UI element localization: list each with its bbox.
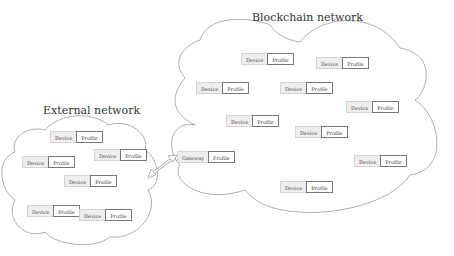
profile-label: Profile: [222, 82, 249, 94]
profile-label: Profile: [252, 115, 279, 127]
blockchain-device-node[interactable]: DeviceProfile: [295, 126, 348, 138]
external-device-node[interactable]: DeviceProfile: [64, 175, 117, 187]
external-device-node[interactable]: DeviceProfile: [27, 205, 80, 217]
profile-label: Profile: [267, 53, 294, 65]
gateway-node[interactable]: GatewayProfile: [177, 151, 235, 163]
external-device-node[interactable]: DeviceProfile: [79, 209, 132, 221]
profile-label: Profile: [53, 205, 80, 217]
external-device-node[interactable]: DeviceProfile: [50, 131, 103, 143]
profile-label: Profile: [90, 175, 117, 187]
external-device-node[interactable]: DeviceProfile: [22, 156, 75, 168]
blockchain-device-node-label: Device: [295, 126, 321, 138]
profile-label: Profile: [306, 82, 333, 94]
blockchain-device-node[interactable]: DeviceProfile: [280, 82, 333, 94]
external-network-title: External network: [43, 104, 140, 117]
blockchain-device-node-label: Device: [354, 155, 380, 167]
profile-label: Profile: [380, 155, 407, 167]
blockchain-device-node-label: Device: [316, 57, 342, 69]
blockchain-device-node-label: Device: [196, 82, 222, 94]
bidirectional-arrow-icon: [148, 155, 177, 178]
profile-label: Profile: [342, 57, 369, 69]
external-device-node-label: Device: [50, 131, 76, 143]
external-device-node[interactable]: DeviceProfile: [94, 149, 147, 161]
profile-label: Profile: [208, 151, 235, 163]
profile-label: Profile: [321, 126, 348, 138]
external-device-node-label: Device: [79, 209, 105, 221]
blockchain-device-node-label: Device: [280, 181, 306, 193]
blockchain-device-node[interactable]: DeviceProfile: [280, 181, 333, 193]
blockchain-network-title: Blockchain network: [252, 11, 363, 24]
profile-label: Profile: [48, 156, 75, 168]
profile-label: Profile: [120, 149, 147, 161]
gateway-node-label: Gateway: [177, 151, 208, 163]
blockchain-device-node-label: Device: [226, 115, 252, 127]
blockchain-device-node[interactable]: DeviceProfile: [354, 155, 407, 167]
blockchain-device-node-label: Device: [346, 101, 372, 113]
profile-label: Profile: [372, 101, 399, 113]
blockchain-device-node[interactable]: DeviceProfile: [226, 115, 279, 127]
blockchain-device-node-label: Device: [280, 82, 306, 94]
blockchain-device-node[interactable]: DeviceProfile: [196, 82, 249, 94]
external-device-node-label: Device: [64, 175, 90, 187]
blockchain-device-node[interactable]: DeviceProfile: [241, 53, 294, 65]
external-device-node-label: Device: [94, 149, 120, 161]
external-device-node-label: Device: [27, 205, 53, 217]
profile-label: Profile: [76, 131, 103, 143]
blockchain-device-node-label: Device: [241, 53, 267, 65]
blockchain-device-node[interactable]: DeviceProfile: [346, 101, 399, 113]
profile-label: Profile: [306, 181, 333, 193]
profile-label: Profile: [105, 209, 132, 221]
blockchain-device-node[interactable]: DeviceProfile: [316, 57, 369, 69]
external-device-node-label: Device: [22, 156, 48, 168]
